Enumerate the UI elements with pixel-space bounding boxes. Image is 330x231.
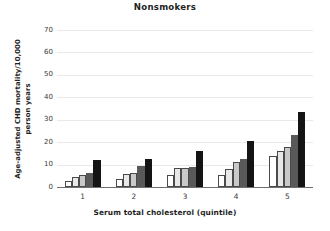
y-tick-label: 30 bbox=[23, 115, 53, 123]
bar-group bbox=[269, 30, 305, 187]
bar bbox=[240, 159, 247, 187]
bar bbox=[189, 167, 196, 187]
bar-group bbox=[116, 30, 152, 187]
bar bbox=[137, 166, 144, 187]
bar bbox=[233, 162, 240, 187]
plot-area bbox=[57, 30, 313, 187]
bar bbox=[116, 179, 123, 187]
chart-title: Nonsmokers bbox=[0, 2, 330, 12]
bar bbox=[130, 173, 137, 187]
bar bbox=[225, 169, 232, 187]
bar bbox=[269, 156, 276, 187]
y-tick-label: 0 bbox=[23, 183, 53, 191]
bar bbox=[93, 160, 100, 187]
bar bbox=[291, 135, 298, 187]
bar bbox=[72, 177, 79, 187]
y-axis-title-line-2: person years bbox=[24, 83, 32, 134]
bar bbox=[298, 112, 305, 187]
bar bbox=[284, 147, 291, 187]
bar bbox=[145, 159, 152, 187]
chart-figure: Nonsmokers Age-adjusted CHD mortality/10… bbox=[0, 0, 330, 231]
y-tick-label: 10 bbox=[23, 160, 53, 168]
bar bbox=[277, 151, 284, 187]
x-tick-label: 5 bbox=[267, 192, 307, 201]
bar-group bbox=[167, 30, 203, 187]
x-axis-title: Serum total cholesterol (quintile) bbox=[0, 208, 330, 217]
bar bbox=[174, 168, 181, 187]
y-axis-title-line-1: Age-adjusted CHD mortality/10,000 bbox=[14, 39, 22, 179]
y-tick-label: 40 bbox=[23, 93, 53, 101]
bar-group bbox=[218, 30, 254, 187]
x-tick-label: 1 bbox=[63, 192, 103, 201]
bar bbox=[196, 151, 203, 187]
x-axis-line bbox=[57, 187, 313, 188]
x-tick-label: 3 bbox=[165, 192, 205, 201]
bar-group bbox=[65, 30, 101, 187]
bar bbox=[167, 175, 174, 187]
bar bbox=[79, 175, 86, 187]
bar bbox=[247, 141, 254, 187]
y-tick-label: 60 bbox=[23, 48, 53, 56]
bar bbox=[123, 174, 130, 188]
bar bbox=[218, 175, 225, 187]
bar bbox=[86, 173, 93, 187]
y-tick-label: 70 bbox=[23, 26, 53, 34]
y-tick-label: 50 bbox=[23, 70, 53, 78]
x-tick-label: 2 bbox=[114, 192, 154, 201]
x-tick-label: 4 bbox=[216, 192, 256, 201]
bar bbox=[181, 168, 188, 188]
y-tick-label: 20 bbox=[23, 138, 53, 146]
